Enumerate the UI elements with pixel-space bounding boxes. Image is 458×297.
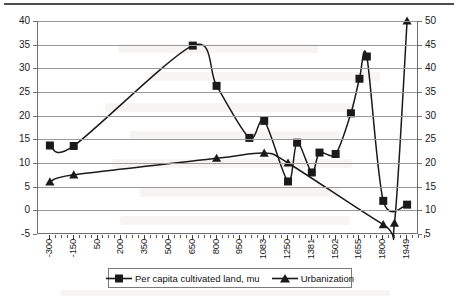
- x-axis-minor-tick: [376, 235, 377, 238]
- y-axis-secondary-tick-label: 5: [425, 229, 451, 239]
- y-axis-primary-tick: [33, 68, 37, 69]
- series-line-urbanization: [50, 21, 407, 239]
- y-axis-secondary-tick: [418, 187, 422, 188]
- x-axis-minor-tick: [126, 235, 127, 238]
- x-axis-minor-tick: [400, 235, 401, 238]
- x-axis-minor-tick: [370, 235, 371, 238]
- x-axis-tick: [216, 235, 217, 240]
- x-axis-tick-label: 1083: [258, 239, 268, 259]
- data-point-square: [363, 53, 371, 61]
- x-axis-minor-tick: [341, 235, 342, 238]
- x-axis-tick-label: 650: [187, 239, 197, 254]
- y-axis-primary-tick-label: 20: [2, 111, 30, 121]
- y-axis-secondary-tick-label: 25: [425, 134, 451, 144]
- x-axis-tick-label: 500: [163, 239, 173, 254]
- x-axis-tick-label: 950: [234, 239, 244, 254]
- x-axis-minor-tick: [180, 235, 181, 238]
- x-axis-tick-label: 1949: [401, 239, 411, 259]
- x-axis-minor-tick: [245, 235, 246, 238]
- data-point-triangle: [379, 220, 388, 228]
- data-point-square: [316, 149, 324, 157]
- x-axis-minor-tick: [418, 235, 419, 238]
- x-axis-minor-tick: [91, 235, 92, 238]
- x-axis-minor-tick: [108, 235, 109, 238]
- x-axis-tick-label: 800: [211, 239, 221, 254]
- y-axis-secondary-tick: [418, 210, 422, 211]
- y-axis-secondary-tick: [418, 68, 422, 69]
- y-axis-primary-tick: [33, 234, 37, 235]
- x-axis-tick: [382, 235, 383, 240]
- square-marker-icon: [106, 273, 132, 284]
- x-axis-minor-tick: [299, 235, 300, 238]
- data-point-triangle: [390, 219, 399, 227]
- x-axis-tick-label: -300: [44, 239, 54, 257]
- y-axis-primary-tick: [33, 21, 37, 22]
- data-point-square: [403, 201, 411, 209]
- y-axis-secondary-tick: [418, 139, 422, 140]
- gridline: [38, 187, 417, 188]
- x-axis-minor-tick: [317, 235, 318, 238]
- y-axis-primary-tick-label: 5: [2, 182, 30, 192]
- x-axis-minor-tick: [424, 235, 425, 238]
- y-axis-primary-tick-label: 25: [2, 87, 30, 97]
- data-point-triangle: [45, 177, 54, 185]
- x-axis-minor-tick: [388, 235, 389, 238]
- x-axis-tick-label: 1502: [330, 239, 340, 259]
- x-axis-tick: [49, 235, 50, 240]
- data-point-square: [379, 197, 387, 205]
- legend-item-urbanization[interactable]: Urbanization: [272, 273, 354, 284]
- gridline: [38, 116, 417, 117]
- data-point-square: [355, 75, 363, 83]
- x-axis-minor-tick: [162, 235, 163, 238]
- x-axis-minor-tick: [412, 235, 413, 238]
- x-axis-minor-tick: [347, 235, 348, 238]
- y-axis-secondary-tick-label: 10: [425, 205, 451, 215]
- legend-item-cultivated-land[interactable]: Per capita cultivated land, mu: [106, 273, 260, 284]
- y-axis-primary-tick-label: 15: [2, 134, 30, 144]
- x-axis-minor-tick: [251, 235, 252, 238]
- data-point-square: [284, 177, 292, 185]
- legend-label-cultivated-land: Per capita cultivated land, mu: [135, 273, 260, 284]
- y-axis-primary-tick-label: 0: [2, 205, 30, 215]
- y-axis-secondary-tick: [418, 92, 422, 93]
- x-axis-minor-tick: [305, 235, 306, 238]
- x-axis-tick: [287, 235, 288, 240]
- y-axis-secondary-tick-label: 30: [425, 111, 451, 121]
- y-axis-primary-tick-label: 30: [2, 63, 30, 73]
- gridline: [38, 92, 417, 93]
- x-axis-tick: [168, 235, 169, 240]
- data-point-square: [245, 134, 253, 142]
- x-axis-tick-label: -150: [68, 239, 78, 257]
- x-axis-tick-label: 350: [139, 239, 149, 254]
- gridline: [38, 163, 417, 164]
- x-axis-tick-label: 1655: [353, 239, 363, 259]
- y-axis-secondary-tick-label: 50: [425, 16, 451, 26]
- header-rule: [4, 3, 454, 5]
- triangle-marker-icon: [272, 273, 298, 284]
- x-axis-tick: [73, 235, 74, 240]
- data-point-square: [46, 141, 54, 149]
- x-axis-tick: [406, 235, 407, 240]
- x-axis-minor-tick: [67, 235, 68, 238]
- y-axis-secondary-tick: [418, 45, 422, 46]
- y-axis-secondary-tick-label: 40: [425, 63, 451, 73]
- x-axis-tick: [97, 235, 98, 240]
- x-axis-minor-tick: [114, 235, 115, 238]
- y-axis-secondary-tick: [418, 163, 422, 164]
- x-axis-minor-tick: [174, 235, 175, 238]
- y-axis-secondary-tick-label: 45: [425, 40, 451, 50]
- y-axis-primary-tick-label: -5: [2, 229, 30, 239]
- x-axis-minor-tick: [85, 235, 86, 238]
- x-axis-tick: [335, 235, 336, 240]
- y-axis-primary-tick: [33, 116, 37, 117]
- bleed-artifact: [60, 290, 390, 296]
- data-point-square: [70, 142, 78, 150]
- x-axis-tick: [192, 235, 193, 240]
- legend-label-urbanization: Urbanization: [301, 273, 354, 284]
- y-axis-primary-tick-label: 40: [2, 16, 30, 26]
- x-axis-minor-tick: [275, 235, 276, 238]
- x-axis-minor-tick: [186, 235, 187, 238]
- x-axis-tick: [358, 235, 359, 240]
- data-point-square: [260, 117, 268, 125]
- x-axis-minor-tick: [329, 235, 330, 238]
